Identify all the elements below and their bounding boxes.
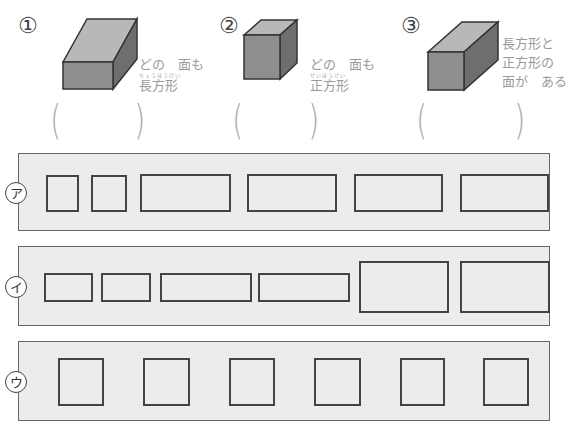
face-square-u2 — [143, 358, 190, 406]
caption-line: 面が ある — [502, 72, 567, 91]
face-square-u4 — [314, 358, 361, 406]
face-rect-i4 — [258, 273, 350, 302]
face-rect-i6 — [460, 261, 550, 313]
face-rect-a2 — [91, 175, 127, 212]
face-rect-i5 — [359, 261, 449, 313]
caption-line: 長方形 — [139, 78, 178, 93]
answer-blank-2[interactable] — [244, 100, 304, 148]
face-square-u6 — [483, 358, 529, 406]
caption-2: どの 面も せいほうけい 正方形 — [310, 57, 375, 93]
row-label-u: ウ — [5, 371, 27, 393]
answer-blank-1[interactable] — [62, 100, 132, 148]
answer-blank-3[interactable] — [428, 100, 508, 148]
caption-line: 正方形 — [310, 78, 349, 93]
face-rect-a3 — [140, 174, 231, 212]
face-rect-a5 — [354, 174, 443, 212]
face-rect-a4 — [247, 174, 337, 212]
face-square-u5 — [400, 358, 445, 406]
rectangular-prism-figure — [60, 17, 140, 92]
face-rect-a1 — [46, 175, 79, 212]
face-rect-i2 — [101, 273, 151, 302]
cube-figure — [242, 18, 302, 82]
question-number-2: ② — [219, 15, 239, 37]
caption-line: 正方形の — [502, 53, 567, 72]
face-square-u1 — [58, 358, 104, 406]
face-rect-a6 — [460, 174, 549, 212]
caption-1: どの 面も ちょうほうけい 長方形 — [139, 57, 204, 93]
answer-open-paren-1: ( — [50, 100, 61, 140]
square-prism-figure — [426, 20, 506, 92]
answer-close-paren-2: ) — [308, 100, 319, 140]
answer-open-paren-3: ( — [416, 100, 427, 140]
question-number-3: ③ — [401, 15, 421, 37]
caption-3: 長方形と 正方形の 面が ある — [502, 34, 567, 91]
question-number-1: ① — [18, 15, 38, 37]
row-label-i: イ — [5, 276, 27, 298]
answer-open-paren-2: ( — [232, 100, 243, 140]
caption-line: どの 面も — [310, 57, 375, 72]
caption-line: どの 面も — [139, 57, 204, 72]
answer-close-paren-3: ) — [514, 100, 525, 140]
caption-line: 長方形と — [502, 34, 567, 53]
face-rect-i3 — [160, 273, 252, 302]
face-rect-i1 — [44, 273, 93, 302]
row-label-a: ア — [5, 182, 27, 204]
answer-close-paren-1: ) — [134, 100, 145, 140]
face-square-u3 — [229, 358, 275, 406]
